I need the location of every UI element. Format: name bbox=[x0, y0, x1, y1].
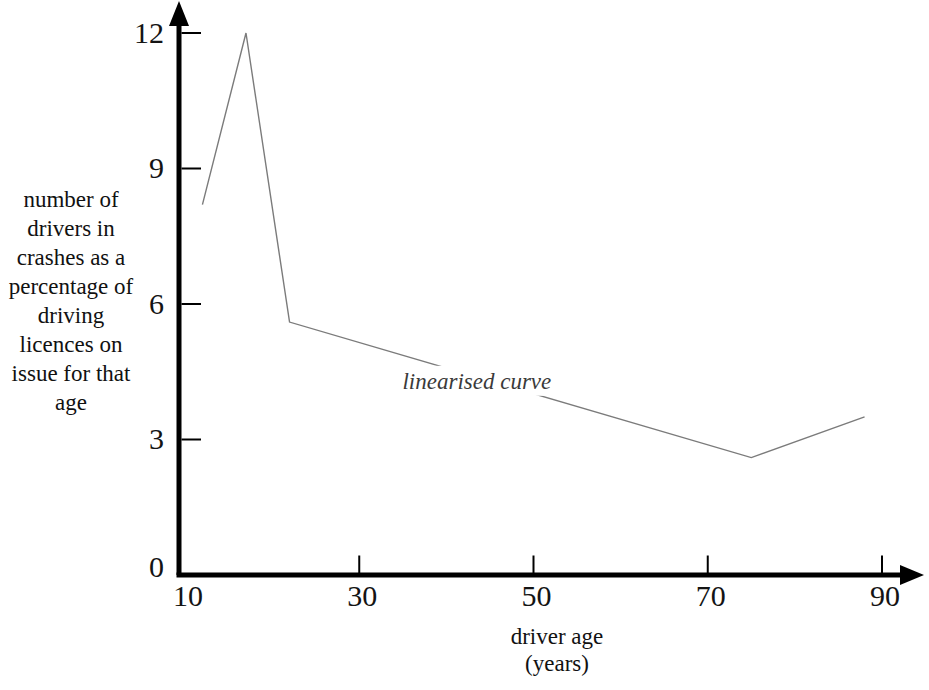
x-tick-label: 90 bbox=[870, 579, 900, 612]
x-tick-label: 70 bbox=[696, 579, 726, 612]
y-tick-label: 3 bbox=[149, 422, 164, 455]
x-tick-label: 30 bbox=[347, 579, 377, 612]
y-axis-arrow-icon bbox=[169, 1, 189, 26]
y-tick-label: 12 bbox=[134, 16, 164, 49]
chart-figure: 0369121030507090 linearised curve number… bbox=[0, 0, 929, 690]
x-axis-title: driver age (years) bbox=[477, 623, 637, 677]
y-axis-title: number of drivers in crashes as a percen… bbox=[0, 185, 142, 417]
y-tick-label: 9 bbox=[149, 151, 164, 184]
x-tick-label: 50 bbox=[522, 579, 552, 612]
axes-group: 0369121030507090 bbox=[134, 1, 924, 612]
curve-label: linearised curve bbox=[402, 369, 551, 394]
x-tick-label: 10 bbox=[173, 579, 203, 612]
x-axis-arrow-icon bbox=[900, 565, 924, 585]
y-tick-label: 0 bbox=[149, 550, 164, 583]
y-tick-label: 6 bbox=[149, 287, 164, 320]
